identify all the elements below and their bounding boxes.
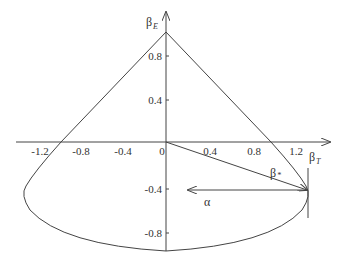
- beta-star-label: β: [270, 166, 276, 180]
- beta-star-label-sub: *: [277, 171, 281, 180]
- x-axis-label-sub: T: [316, 157, 321, 166]
- beta-star-vector: [166, 142, 307, 190]
- y-tick-label: -0.8: [145, 227, 163, 239]
- alpha-label: α: [204, 195, 211, 209]
- x-tick-label: 1.2: [289, 145, 303, 157]
- x-tick-label: -1.2: [31, 145, 48, 157]
- x-tick-label: -0.4: [114, 145, 132, 157]
- y-axis-label: β: [146, 15, 152, 29]
- y-axis-label-sub: E: [152, 22, 158, 31]
- x-axis-label: β: [309, 150, 315, 164]
- x-tick-label: -0.8: [72, 145, 90, 157]
- diagram: 0.8 0.4 -0.4 -0.8 -1.2 -0.8 -0.4 0 0.4 0…: [0, 0, 343, 263]
- y-tick-label: -0.4: [145, 183, 163, 195]
- y-tick-label: 0.4: [148, 94, 162, 106]
- x-tick-label: 0.8: [247, 145, 261, 157]
- x-tick-label: 0.4: [203, 145, 217, 157]
- x-tick-label: 0: [159, 145, 165, 157]
- y-tick-label: 0.8: [148, 50, 162, 62]
